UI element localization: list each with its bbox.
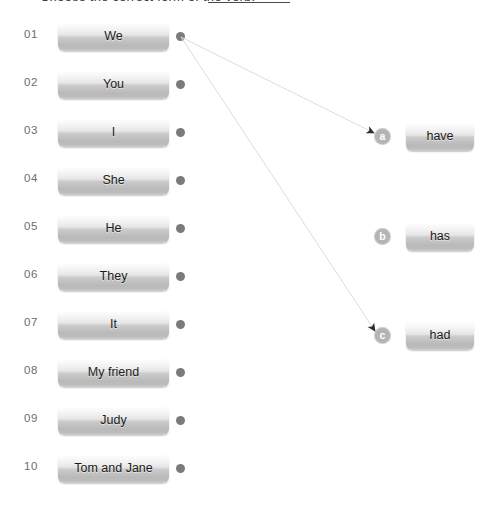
- subject-label: Tom and Jane: [74, 462, 153, 475]
- right-column-options: a have b has c had: [0, 0, 481, 512]
- subject-label: You: [103, 78, 124, 91]
- option-marker-c[interactable]: c: [374, 327, 391, 344]
- subject-label: She: [102, 174, 124, 187]
- option-marker-b[interactable]: b: [374, 228, 391, 245]
- subject-label: It: [110, 318, 117, 331]
- option-c: c had: [374, 321, 481, 351]
- verb-label: has: [430, 230, 450, 243]
- verb-label: have: [426, 130, 453, 143]
- verb-button-has[interactable]: has: [406, 222, 474, 251]
- verb-button-had[interactable]: had: [406, 321, 474, 350]
- verb-label: had: [430, 329, 451, 342]
- subject-label: My friend: [88, 366, 139, 379]
- subject-label: He: [106, 222, 122, 235]
- subject-label: They: [100, 270, 128, 283]
- subject-label: We: [104, 30, 123, 43]
- subject-label: I: [112, 126, 115, 139]
- verb-button-have[interactable]: have: [406, 122, 474, 151]
- option-a: a have: [374, 122, 481, 152]
- option-b: b has: [374, 222, 481, 252]
- subject-label: Judy: [100, 414, 126, 427]
- matching-exercise-page: Choose the correct form of the verb: 01 …: [0, 0, 481, 512]
- option-marker-a[interactable]: a: [374, 128, 391, 145]
